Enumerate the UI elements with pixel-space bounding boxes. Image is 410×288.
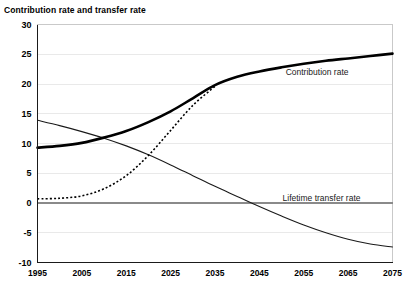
x-tick-2075: 2075 — [383, 268, 402, 278]
y-tick-20: 20 — [21, 79, 31, 89]
y-tick-15: 15 — [21, 109, 31, 119]
x-tick-1995: 1995 — [28, 268, 47, 278]
x-tick-2045: 2045 — [250, 268, 269, 278]
line-chart-plot: 302520151050-5-10 1995200520152025203520… — [0, 0, 410, 288]
data-series-group — [38, 54, 393, 247]
x-axis-tick-labels: 199520052015202520352045205520652075 — [28, 268, 402, 278]
y-tick-0: 0 — [26, 198, 31, 208]
y-tick-5: 5 — [26, 168, 31, 178]
y-tick--5: -5 — [23, 228, 31, 238]
y-tick-30: 30 — [21, 20, 31, 30]
y-tick-25: 25 — [21, 49, 31, 59]
series-line-lifetime-transfer-rate — [38, 120, 393, 247]
chart-container: Contribution rate and transfer rate 3025… — [0, 0, 410, 288]
x-tick-2035: 2035 — [206, 268, 225, 278]
x-tick-2025: 2025 — [161, 268, 180, 278]
x-tick-2055: 2055 — [294, 268, 313, 278]
series-line-transfer-rate-dotted — [38, 86, 216, 198]
annotation-contribution-rate: Contribution rate — [286, 67, 349, 77]
y-tick--10: -10 — [18, 258, 31, 268]
x-tick-2005: 2005 — [72, 268, 91, 278]
annotation-lifetime-transfer-rate: Lifetime transfer rate — [283, 193, 361, 203]
y-tick-10: 10 — [21, 139, 31, 149]
x-tick-2065: 2065 — [339, 268, 358, 278]
y-axis-tick-labels: 302520151050-5-10 — [18, 20, 31, 268]
x-tick-2015: 2015 — [117, 268, 136, 278]
series-annotations: Contribution rateLifetime transfer rate — [283, 67, 361, 203]
